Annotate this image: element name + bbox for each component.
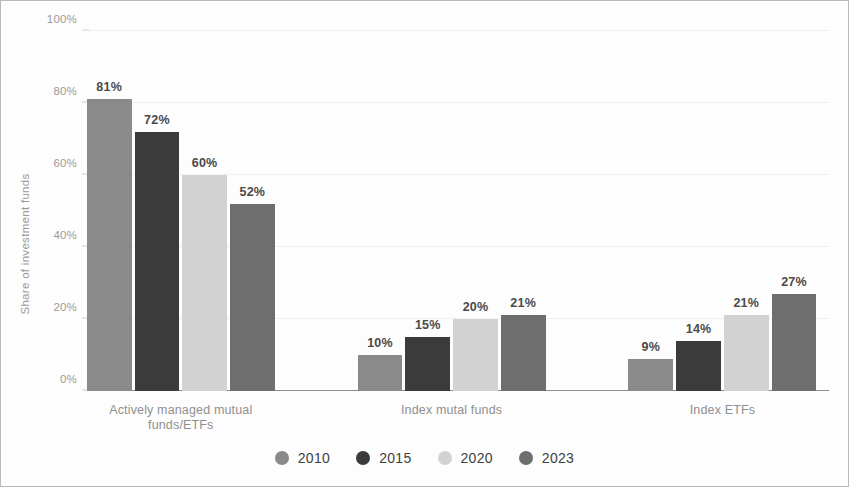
bar-column[interactable]: 52% [228,31,276,391]
y-tick-label: 100% [47,13,77,25]
x-axis-category-line: Index mutal funds [337,403,567,418]
bar[interactable] [135,132,180,391]
bar-value-label: 21% [733,296,759,310]
bar-value-label: 27% [781,275,807,289]
bar-group: 81%72%60%52%Actively managed mutualfunds… [85,31,276,391]
bar-value-label: 20% [463,300,489,314]
bar-column[interactable]: 81% [85,31,133,391]
bar[interactable] [405,337,450,391]
x-axis-category-line: Index ETFs [607,403,837,418]
x-axis-category-label: Index mutal funds [337,403,567,418]
legend-item[interactable]: 2015 [356,450,411,466]
legend-swatch-circle-icon [438,451,452,465]
bar-value-label: 15% [415,318,441,332]
legend-swatch-circle-icon [275,451,289,465]
bar-value-label: 60% [192,156,218,170]
legend-item[interactable]: 2023 [519,450,574,466]
bar[interactable] [501,315,546,391]
chart-figure: Share of investment funds 0%20%40%60%80%… [0,0,849,487]
bar-group: 9%14%21%27%Index ETFs [627,31,818,391]
bar-column[interactable]: 9% [627,31,675,391]
bar-column[interactable]: 21% [499,31,547,391]
bar-column[interactable]: 14% [675,31,723,391]
bar[interactable] [676,341,721,391]
bar[interactable] [772,294,817,391]
x-axis-category-line: funds/ETFs [66,418,296,433]
y-tick-label: 80% [53,85,77,97]
bar-column[interactable]: 60% [181,31,229,391]
bar[interactable] [87,99,132,391]
bar-value-label: 52% [240,185,266,199]
bar-column[interactable]: 20% [452,31,500,391]
legend-item[interactable]: 2020 [438,450,493,466]
legend-swatch-circle-icon [356,451,370,465]
bar[interactable] [628,359,673,391]
bar-value-label: 14% [686,322,712,336]
x-axis-category-line: Actively managed mutual [66,403,296,418]
bar-column[interactable]: 72% [133,31,181,391]
plot-area: 0%20%40%60%80%100% 81%72%60%52%Actively … [89,31,829,391]
y-tick-label: 20% [53,301,77,313]
bar-value-label: 9% [642,340,660,354]
x-axis-category-label: Actively managed mutualfunds/ETFs [66,403,296,433]
y-tick-label: 40% [53,229,77,241]
y-tick-label: 60% [53,157,77,169]
legend-item[interactable]: 2010 [275,450,330,466]
bar-value-label: 81% [96,80,122,94]
bar[interactable] [453,319,498,391]
bar-column[interactable]: 27% [770,31,818,391]
bar[interactable] [358,355,403,391]
legend-label: 2020 [461,450,493,466]
legend-label: 2023 [542,450,574,466]
bar-column[interactable]: 15% [404,31,452,391]
y-tick-label: 0% [60,373,77,385]
bar-group: 10%15%20%21%Index mutal funds [356,31,547,391]
bar-value-label: 21% [510,296,536,310]
y-axis-title: Share of investment funds [19,173,31,314]
chart-legend: 2010201520202023 [1,450,848,466]
bar-column[interactable]: 10% [356,31,404,391]
legend-label: 2010 [298,450,330,466]
x-axis-category-label: Index ETFs [607,403,837,418]
legend-swatch-circle-icon [519,451,533,465]
bar-value-label: 10% [367,336,393,350]
bar[interactable] [182,175,227,391]
legend-label: 2015 [379,450,411,466]
bar-column[interactable]: 21% [722,31,770,391]
bar[interactable] [230,204,275,391]
bar-value-label: 72% [144,113,170,127]
bar[interactable] [724,315,769,391]
